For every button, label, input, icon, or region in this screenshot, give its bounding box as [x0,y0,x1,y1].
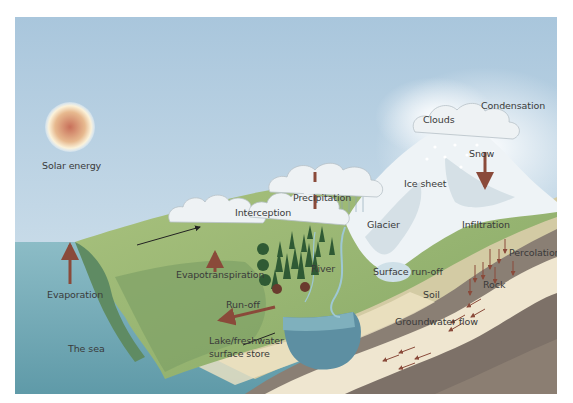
label-ice-sheet: Ice sheet [404,179,446,189]
water-cycle-diagram: Solar energy Evaporation The sea Interce… [15,17,557,394]
label-snow: Snow [469,149,494,159]
label-evapotranspiration: Evapotranspiration [176,270,265,280]
label-solar-energy: Solar energy [42,161,101,171]
label-river: River [311,264,335,274]
label-interception: Interception [235,208,291,218]
diagram-artwork [15,17,557,394]
label-surface-run-off: Surface run-off [373,267,443,277]
label-condensation: Condensation [481,101,545,111]
label-infiltration: Infiltration [462,220,510,230]
label-run-off: Run-off [226,300,260,310]
label-groundwater-flow: Groundwater flow [395,317,478,327]
label-lake-line2: surface store [209,349,270,359]
label-lake-line1: Lake/freshwater [209,336,284,346]
label-clouds: Clouds [423,115,455,125]
sun-icon [45,102,95,152]
label-percolation: Percolation [509,248,557,258]
label-soil: Soil [423,290,440,300]
label-precipitation: Precipitation [293,193,351,203]
label-rock: Rock [483,280,505,290]
label-evaporation: Evaporation [47,290,103,300]
label-the-sea: The sea [68,344,105,354]
label-glacier: Glacier [367,220,400,230]
